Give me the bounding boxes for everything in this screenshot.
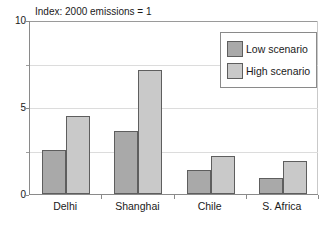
y-axis: 0510 bbox=[0, 0, 26, 231]
x-tick-label: Shanghai bbox=[101, 200, 173, 212]
x-tick-mark bbox=[318, 195, 319, 199]
bar bbox=[283, 161, 307, 194]
legend-label-low: Low scenario bbox=[246, 44, 308, 55]
y-tick-mark bbox=[24, 195, 29, 196]
plot-frame-top bbox=[30, 21, 318, 22]
legend-item-high[interactable]: High scenario bbox=[227, 62, 310, 80]
x-tick-mark bbox=[174, 195, 175, 199]
gridline bbox=[30, 108, 318, 109]
x-tick-mark bbox=[101, 195, 102, 199]
bar bbox=[211, 156, 235, 194]
legend-item-low[interactable]: Low scenario bbox=[227, 40, 308, 58]
x-tick-label: S. Africa bbox=[246, 200, 318, 212]
x-tick-label: Delhi bbox=[29, 200, 101, 212]
legend-label-high: High scenario bbox=[246, 66, 310, 77]
bar bbox=[114, 131, 138, 194]
legend: Low scenario High scenario bbox=[220, 32, 317, 88]
legend-swatch-low-icon bbox=[227, 41, 243, 57]
chart-note: Index: 2000 emissions = 1 bbox=[35, 6, 151, 17]
bar-chart: Index: 2000 emissions = 1 0510 DelhiShan… bbox=[0, 0, 321, 231]
x-tick-label: Chile bbox=[174, 200, 246, 212]
bar bbox=[66, 116, 90, 194]
x-tick-mark bbox=[246, 195, 247, 199]
bar bbox=[259, 178, 283, 194]
legend-swatch-high-icon bbox=[227, 63, 243, 79]
bar bbox=[187, 170, 211, 194]
bar bbox=[42, 150, 66, 194]
bar bbox=[138, 70, 162, 194]
